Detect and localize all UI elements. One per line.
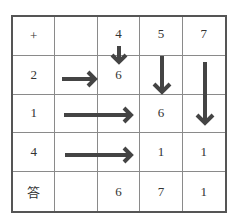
cell-r4-c3	[98, 133, 140, 172]
cell-r2-c5	[183, 56, 225, 95]
cell-r1-c3: 4	[98, 17, 140, 56]
cell-r1-c1: +	[13, 17, 55, 56]
cell-r5-c5: 1	[183, 172, 225, 211]
cell-r2-c3: 6	[98, 56, 140, 95]
cell-r1-c5: 7	[183, 17, 225, 56]
cell-r4-c4: 1	[140, 133, 182, 172]
cell-r3-c2	[55, 95, 97, 134]
cell-r2-c2	[55, 56, 97, 95]
cell-r5-c1: 答	[13, 172, 55, 211]
cell-r5-c4: 7	[140, 172, 182, 211]
cell-r1-c4: 5	[140, 17, 182, 56]
cell-r2-c4	[140, 56, 182, 95]
cell-r4-c2	[55, 133, 97, 172]
cell-r5-c3: 6	[98, 172, 140, 211]
cell-r4-c5: 1	[183, 133, 225, 172]
cell-r3-c1: 1	[13, 95, 55, 134]
cell-r2-c1: 2	[13, 56, 55, 95]
cell-r3-c5	[183, 95, 225, 134]
cell-r3-c4: 6	[140, 95, 182, 134]
cell-r1-c2	[55, 17, 97, 56]
addition-grid: + 4 5 7 2 6 1 6 4 1 1 答 6 7 1	[11, 15, 227, 213]
cell-r3-c3	[98, 95, 140, 134]
cell-r5-c2	[55, 172, 97, 211]
cell-r4-c1: 4	[13, 133, 55, 172]
